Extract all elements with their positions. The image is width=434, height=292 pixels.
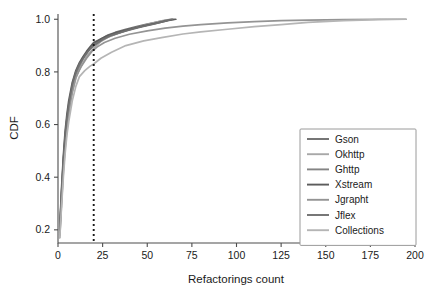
y-tick-label: 1.0 <box>35 13 50 25</box>
x-tick-label: 175 <box>362 249 380 261</box>
y-tick-label: 0.2 <box>35 223 50 235</box>
x-tick-label: 25 <box>97 249 109 261</box>
chart-legend[interactable]: GsonOkhttpGhttpXstreamJgraphtJflexCollec… <box>300 129 416 245</box>
legend-label-jgrapht: Jgrapht <box>335 194 369 205</box>
y-tick-label: 0.4 <box>35 171 50 183</box>
y-axis-label: CDF <box>8 116 20 140</box>
legend-label-collections: Collections <box>335 225 384 236</box>
x-tick-label: 200 <box>406 249 424 261</box>
legend-label-gson: Gson <box>335 134 359 145</box>
legend-label-ghttp: Ghttp <box>335 164 360 175</box>
x-tick-label: 50 <box>141 249 153 261</box>
y-tick-label: 0.8 <box>35 66 50 78</box>
legend-label-okhttp: Okhttp <box>335 149 365 160</box>
x-tick-label: 100 <box>228 249 246 261</box>
x-tick-label: 75 <box>186 249 198 261</box>
legend-label-jflex: Jflex <box>335 210 356 221</box>
y-tick-label: 0.6 <box>35 118 50 130</box>
x-tick-label: 125 <box>272 249 290 261</box>
cdf-line-chart: 0255075100125150175200 0.20.40.60.81.0 R… <box>0 0 434 292</box>
x-tick-label: 150 <box>317 249 335 261</box>
legend-label-xstream: Xstream <box>335 179 372 190</box>
x-tick-label: 0 <box>55 249 61 261</box>
x-axis-label: Refactorings count <box>188 273 285 285</box>
chart-figure: 0255075100125150175200 0.20.40.60.81.0 R… <box>0 0 434 292</box>
